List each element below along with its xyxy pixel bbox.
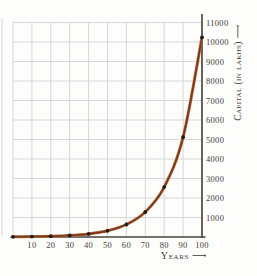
y-tick-label: 5000 [206, 135, 224, 145]
y-tick-label: 4000 [206, 154, 224, 164]
x-tick-label: 100 [191, 240, 213, 250]
data-point [11, 235, 15, 239]
data-point [200, 35, 204, 39]
capital-growth-chart: 102030405060708090100 100020003000400050… [0, 0, 257, 276]
y-tick-label: 11000 [206, 18, 228, 28]
data-point [181, 135, 185, 139]
y-tick-label: 2000 [206, 193, 224, 203]
y-tick-label: 10000 [206, 37, 229, 47]
data-point [106, 229, 110, 233]
y-axis-title: Capital (in lakhs) ⟶ [232, 12, 245, 134]
data-point [30, 235, 34, 239]
data-point [68, 234, 72, 238]
data-point [125, 223, 129, 227]
data-point [87, 232, 91, 236]
y-tick-label: 8000 [206, 76, 224, 86]
y-tick-label: 3000 [206, 174, 224, 184]
y-tick-label: 9000 [206, 57, 224, 67]
data-point [49, 234, 53, 238]
x-axis-title: Years ⟶ [161, 250, 207, 261]
y-tick-label: 6000 [206, 115, 224, 125]
y-tick-label: 7000 [206, 96, 224, 106]
data-point [162, 185, 166, 189]
data-point [143, 210, 147, 214]
y-tick-label: 1000 [206, 213, 224, 223]
